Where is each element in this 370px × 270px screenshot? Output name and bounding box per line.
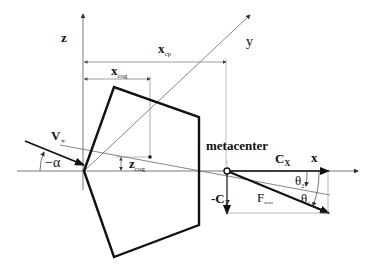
faero-label: Faero — [257, 190, 273, 205]
zcog-label: zcog — [129, 156, 145, 173]
cx-label: CX — [275, 151, 290, 168]
body-axis-line — [60, 145, 330, 195]
theta1-arc — [313, 171, 319, 206]
xcog-label: xcog — [111, 63, 128, 80]
alpha-label: −α — [45, 155, 61, 170]
y-axis-label: y — [246, 34, 253, 49]
metacenter-label: metacenter — [206, 138, 268, 153]
xcp-label: xcp — [158, 41, 172, 58]
theta2-arc — [306, 171, 307, 186]
z-axis-label: z — [61, 30, 67, 45]
theta2-label: θ2 — [295, 173, 304, 189]
metacenter-diagram: z y x xcp xcog zcog V∞ −α metacenter CX … — [0, 0, 370, 270]
theta1-label: θ1 — [301, 191, 310, 207]
alpha-arc — [40, 152, 44, 171]
velocity-label: V∞ — [51, 128, 65, 145]
cog-point — [149, 156, 152, 159]
metacenter-point — [224, 168, 230, 174]
x-axis-label: x — [311, 150, 318, 165]
